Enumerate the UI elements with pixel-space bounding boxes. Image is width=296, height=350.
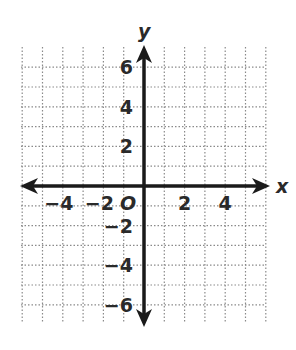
x-tick-label: 2 <box>178 192 191 214</box>
y-axis-label: y <box>138 20 152 42</box>
axes <box>20 45 270 327</box>
coordinate-plane: −4−224642−2−4−6 x y O <box>0 0 296 350</box>
x-tick-label: −2 <box>85 192 114 214</box>
y-tick-label: −4 <box>104 254 133 276</box>
y-tick-label: 2 <box>120 135 133 157</box>
x-tick-label: −4 <box>44 192 73 214</box>
x-tick-label: 4 <box>219 192 232 214</box>
y-tick-label: −6 <box>104 294 133 316</box>
origin-label: O <box>120 192 136 214</box>
y-tick-label: −2 <box>104 215 133 237</box>
y-tick-label: 6 <box>120 56 133 78</box>
y-tick-label: 4 <box>120 96 133 118</box>
x-axis-label: x <box>275 175 289 197</box>
